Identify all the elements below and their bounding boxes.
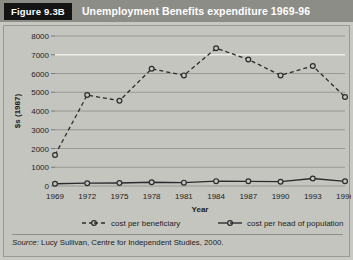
y-axis-tick-label: 1000 <box>31 163 49 172</box>
legend-label-2: cost per head of population <box>247 219 344 228</box>
legend-label-1: cost per beneficiary <box>111 219 180 228</box>
x-axis-tick-label: 1969 <box>46 192 64 201</box>
data-point <box>117 181 122 186</box>
data-point <box>310 64 315 69</box>
x-axis-tick-label: 1990 <box>272 192 290 201</box>
series-line-1 <box>55 48 345 155</box>
x-axis-tick-label: 1984 <box>207 192 225 201</box>
data-point <box>53 181 58 186</box>
y-axis-tick-label: 3000 <box>31 126 49 135</box>
data-point <box>214 46 219 51</box>
x-axis-tick-label: 1978 <box>143 192 161 201</box>
x-axis-tick-label: 1996 <box>336 192 351 201</box>
x-axis-tick-label: 1972 <box>78 192 96 201</box>
figure-panel: Figure 9.3B Unemployment Benefits expend… <box>0 0 353 260</box>
data-point <box>214 179 219 184</box>
source-note: Source: Lucy Sullivan, Centre for Indepe… <box>12 238 224 247</box>
data-point <box>246 57 251 62</box>
x-axis-tick-label: 1993 <box>304 192 322 201</box>
x-axis-tick-label: 1975 <box>111 192 129 201</box>
data-point <box>181 180 186 185</box>
y-axis-tick-label: 4000 <box>31 107 49 116</box>
y-axis-tick-label: 8000 <box>31 32 49 41</box>
data-point <box>278 179 283 184</box>
x-axis-title: Year <box>192 205 209 214</box>
x-axis-tick-label: 1987 <box>239 192 257 201</box>
figure-number-badge: Figure 9.3B <box>4 3 72 20</box>
figure-title: Unemployment Benefits expenditure 1969-9… <box>82 5 310 17</box>
data-point <box>53 153 58 158</box>
data-point <box>85 93 90 98</box>
y-axis-title: $s (1987) <box>13 94 22 129</box>
data-point <box>149 180 154 185</box>
data-point <box>85 181 90 186</box>
data-point <box>149 66 154 71</box>
source-divider <box>12 234 343 235</box>
x-axis-tick-label: 1981 <box>175 192 193 201</box>
y-axis-tick-label: 0 <box>45 182 50 191</box>
data-point <box>181 73 186 78</box>
figure-header: Figure 9.3B Unemployment Benefits expend… <box>0 0 353 22</box>
data-point <box>117 98 122 103</box>
figure-body: 010002000300040005000600070008000$s (198… <box>3 25 350 257</box>
y-axis-tick-label: 2000 <box>31 145 49 154</box>
source-text: Lucy Sullivan, Centre for Independent St… <box>39 238 224 247</box>
y-axis-tick-label: 5000 <box>31 88 49 97</box>
line-chart: 010002000300040005000600070008000$s (198… <box>4 26 351 231</box>
data-point <box>343 95 348 100</box>
data-point <box>310 176 315 181</box>
y-axis-tick-label: 6000 <box>31 70 49 79</box>
data-point <box>246 179 251 184</box>
source-prefix: Source: <box>12 238 39 247</box>
data-point <box>343 179 348 184</box>
data-point <box>278 73 283 78</box>
series-line-2 <box>55 179 345 184</box>
chart-plot-area: 010002000300040005000600070008000$s (198… <box>4 26 351 258</box>
y-axis-tick-label: 7000 <box>31 51 49 60</box>
